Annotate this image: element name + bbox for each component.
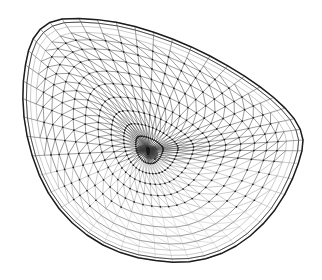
mesh-node <box>108 49 110 51</box>
mesh-node <box>90 93 92 95</box>
mesh-node <box>86 106 88 108</box>
mesh-node <box>222 118 224 120</box>
mesh-node <box>151 138 153 140</box>
mesh-node <box>104 159 106 161</box>
mesh-node <box>99 144 101 146</box>
mesh-node <box>158 172 160 174</box>
mesh-node <box>100 59 102 61</box>
mesh-node <box>153 162 155 164</box>
mesh-node <box>144 136 146 138</box>
mesh-node <box>252 105 254 107</box>
mesh-node <box>125 197 127 199</box>
mesh-node <box>87 99 89 101</box>
mesh-node <box>150 90 152 92</box>
mesh-node <box>177 175 179 177</box>
mesh-node <box>126 154 128 156</box>
mesh-node <box>132 110 134 112</box>
mesh-node <box>176 191 178 193</box>
mesh-node <box>132 164 134 166</box>
mesh-node <box>53 84 55 86</box>
mesh-node <box>137 123 139 125</box>
mesh-node <box>81 48 83 50</box>
mesh-node <box>133 201 135 203</box>
mesh-node <box>135 140 137 142</box>
mesh-node <box>220 164 222 166</box>
mesh-node <box>169 97 171 99</box>
mesh-node <box>258 171 260 173</box>
mesh-node <box>85 114 87 116</box>
mesh-node <box>210 123 212 125</box>
mesh-node <box>98 85 100 87</box>
mesh-node <box>175 143 177 145</box>
mesh-node <box>208 201 210 203</box>
mesh-node <box>202 132 204 134</box>
mesh-node <box>149 173 151 175</box>
mesh-node <box>135 142 137 144</box>
mesh-node <box>64 169 66 171</box>
mesh-node <box>108 98 110 100</box>
mesh-node <box>233 166 235 168</box>
mesh-node <box>241 120 243 122</box>
mesh-node <box>173 178 175 180</box>
mesh-node <box>118 111 120 113</box>
mesh-node <box>124 146 126 148</box>
mesh-node <box>101 104 103 106</box>
mesh-node <box>62 126 64 128</box>
mesh-node <box>163 132 165 134</box>
mesh-node <box>187 163 189 165</box>
mesh-node <box>268 173 270 175</box>
mesh-node <box>42 106 44 108</box>
mesh-node <box>122 110 124 112</box>
mesh-node <box>169 137 171 139</box>
mesh-node <box>73 66 75 68</box>
mesh-node <box>74 98 76 100</box>
mesh-node <box>83 77 85 79</box>
mesh-node <box>157 141 159 143</box>
mesh-node <box>192 149 194 151</box>
mesh-node <box>56 170 58 172</box>
mesh-node <box>152 59 154 61</box>
mesh-node <box>88 73 90 75</box>
mesh-node <box>51 110 53 112</box>
mesh-node <box>73 199 75 201</box>
mesh-node <box>64 140 66 142</box>
mesh-node <box>155 140 157 142</box>
mesh-node <box>144 182 146 184</box>
mesh-node <box>68 73 70 75</box>
mesh-node <box>157 105 159 107</box>
mesh-node <box>245 195 247 197</box>
mesh-node <box>248 128 250 130</box>
mesh-node <box>262 187 264 189</box>
mesh-node <box>205 187 207 189</box>
mesh-node <box>136 150 138 152</box>
mesh-node <box>190 84 192 86</box>
mesh-node <box>158 143 160 145</box>
mesh-node <box>241 96 243 98</box>
mesh-node <box>253 199 255 201</box>
mesh-node <box>123 51 125 53</box>
mesh-node <box>205 105 207 107</box>
mesh-node <box>240 143 242 145</box>
mesh-node <box>101 152 103 154</box>
mesh-node <box>146 162 148 164</box>
mesh-node <box>238 137 240 139</box>
mesh-node <box>105 40 107 42</box>
mesh-node <box>250 158 252 160</box>
mesh-node <box>134 98 136 100</box>
mesh-node <box>157 195 159 197</box>
mesh-node <box>79 195 81 197</box>
mesh-node <box>129 188 131 190</box>
mesh-node <box>135 146 137 148</box>
mesh-node <box>79 82 81 84</box>
mesh-node <box>209 145 211 147</box>
mesh-node <box>103 179 105 181</box>
mesh-node <box>97 128 99 130</box>
mesh-hub-node <box>147 149 150 152</box>
mesh-node <box>159 93 161 95</box>
mesh-node <box>151 79 153 81</box>
mesh-node <box>46 138 48 140</box>
mesh-node <box>125 150 127 152</box>
mesh-node <box>155 173 157 175</box>
mesh-node <box>253 150 255 152</box>
mesh-node <box>170 193 172 195</box>
